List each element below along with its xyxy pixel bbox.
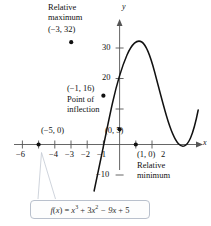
x-tick-label-minus-4: −4 bbox=[49, 150, 58, 159]
graph-figure: Relative maximum (−3, 32) (−1, 16) Point… bbox=[0, 0, 211, 226]
inflection-label-line1: Point of bbox=[67, 95, 94, 104]
point-relative-minimum bbox=[134, 142, 138, 146]
y-tick-label-20: 20 bbox=[102, 73, 111, 82]
y-intercept-point-label: (0, 5) bbox=[105, 126, 123, 135]
function-plot bbox=[0, 0, 211, 226]
relative-minimum-point-label: (1, 0) bbox=[137, 150, 155, 159]
function-equation-text: f(x) = x3 + 3x2 − 9x + 5 bbox=[50, 204, 129, 215]
relative-minimum-label-line2: minimum bbox=[137, 171, 170, 180]
y-tick-label-minus-10: −10 bbox=[96, 170, 109, 179]
inflection-label-line2: inflection bbox=[67, 105, 100, 114]
relative-maximum-label-line2: maximum bbox=[48, 13, 82, 22]
x-tick-label-minus-1: −1 bbox=[97, 150, 106, 159]
callout-leader-lines bbox=[38, 153, 56, 200]
y-axis-name: y bbox=[122, 3, 126, 12]
point-inflection bbox=[101, 94, 105, 98]
relative-maximum-label-line1: Relative bbox=[48, 3, 76, 12]
relative-minimum-label-line1: Relative bbox=[137, 161, 165, 170]
x-tick-label-minus-2: −2 bbox=[81, 150, 90, 159]
function-name: f bbox=[50, 205, 52, 215]
term2-exponent: 2 bbox=[95, 204, 98, 210]
term1-exponent: 3 bbox=[75, 204, 78, 210]
term4: + 5 bbox=[118, 205, 129, 215]
function-equation-box: f(x) = x3 + 3x2 − 9x + 5 bbox=[30, 200, 150, 219]
equals-sign: = bbox=[64, 205, 69, 215]
x-tick-label-2: 2 bbox=[161, 150, 165, 159]
x-tick-label-minus-3: −3 bbox=[65, 150, 74, 159]
function-variable: x bbox=[56, 205, 60, 215]
relative-maximum-point-label: (−3, 32) bbox=[48, 25, 75, 34]
y-axis bbox=[116, 19, 124, 175]
point-x-intercept bbox=[37, 142, 41, 146]
x-tick-label-minus-6: −6 bbox=[16, 150, 25, 159]
term3: − 9x bbox=[100, 205, 116, 215]
inflection-point-label: (−1, 16) bbox=[67, 84, 94, 93]
x-axis-name: x bbox=[203, 139, 207, 148]
point-relative-maximum-marker bbox=[69, 40, 73, 44]
y-tick-label-30: 30 bbox=[102, 43, 111, 52]
x-intercept-point-label: (−5, 0) bbox=[41, 126, 64, 135]
x-axis bbox=[14, 141, 203, 149]
